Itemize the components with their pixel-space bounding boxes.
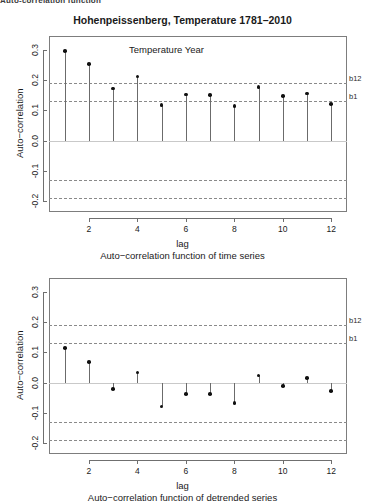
zero-reference-line (49, 141, 347, 142)
x-tick (331, 460, 332, 464)
clipped-page-header: Auto-correlation function (0, 0, 200, 8)
data-point (208, 392, 212, 396)
confidence-band-line (49, 101, 347, 102)
y-tick (43, 292, 47, 293)
y-axis-line (43, 292, 44, 444)
data-point (63, 346, 67, 350)
x-tick (331, 218, 332, 222)
stem-line (234, 106, 235, 141)
data-point (87, 360, 91, 364)
stem-line (137, 76, 138, 140)
x-tick (186, 218, 187, 222)
confidence-band-line (49, 422, 347, 423)
confidence-band-line (49, 180, 347, 181)
y-axis-label: Auto−correlation (14, 331, 25, 400)
chart-panel-time-series: Hohenpeissenberg, Temperature 1781–2010 … (0, 14, 365, 259)
x-tick (234, 460, 235, 464)
y-tick-label: -0.1 (30, 401, 40, 425)
y-tick-label: -0.2 (30, 431, 40, 455)
y-tick (43, 413, 47, 414)
band-label-b1: b1 (349, 92, 357, 101)
stem-line (186, 95, 187, 141)
data-point (233, 401, 237, 405)
y-tick (43, 352, 47, 353)
data-point (329, 389, 333, 393)
stem-line (65, 51, 66, 141)
stem-line (89, 362, 90, 383)
y-tick (43, 110, 47, 111)
y-tick-label: 0.2 (30, 68, 40, 92)
stem-line (234, 383, 235, 403)
x-tick (283, 460, 284, 464)
y-tick-label: 0.0 (30, 371, 40, 395)
plot-frame (49, 36, 347, 212)
plot-frame (49, 278, 347, 454)
x-tick-label: 6 (176, 224, 196, 234)
x-tick (283, 218, 284, 222)
stem-line (113, 88, 114, 140)
x-tick (137, 460, 138, 464)
y-tick (43, 80, 47, 81)
x-tick-label: 8 (224, 466, 244, 476)
stem-line (137, 373, 138, 383)
chart-caption: Auto−correlation function of detrended s… (0, 492, 365, 503)
chart-caption: Auto−correlation function of time series (0, 250, 365, 261)
y-tick (43, 383, 47, 384)
y-tick-label: 0.3 (30, 280, 40, 304)
x-tick-label: 2 (79, 224, 99, 234)
y-tick (43, 50, 47, 51)
confidence-band-line (49, 83, 347, 84)
data-point (87, 62, 91, 66)
confidence-band-line (49, 440, 347, 441)
x-tick (234, 218, 235, 222)
x-tick (137, 218, 138, 222)
stem-line (65, 348, 66, 383)
x-tick (89, 218, 90, 222)
x-tick-label: 2 (79, 466, 99, 476)
y-tick-label: 0.1 (30, 340, 40, 364)
x-tick-label: 10 (273, 466, 293, 476)
y-tick (43, 141, 47, 142)
plot-annotation: Temperature Year (129, 44, 204, 55)
data-point (305, 92, 309, 96)
x-tick-label: 12 (321, 466, 341, 476)
x-tick-label: 4 (127, 466, 147, 476)
data-point (208, 93, 212, 97)
y-tick (43, 322, 47, 323)
confidence-band-line (49, 198, 347, 199)
data-point (63, 49, 67, 53)
x-tick (89, 460, 90, 464)
y-tick-label: 0.3 (30, 38, 40, 62)
band-label-b12: b12 (349, 316, 362, 325)
x-axis-label: lag (0, 238, 365, 249)
x-tick (186, 460, 187, 464)
y-tick-label: 0.2 (30, 310, 40, 334)
y-tick-label: 0.0 (30, 129, 40, 153)
y-tick-label: 0.1 (30, 98, 40, 122)
y-tick (43, 171, 47, 172)
y-axis-line (43, 50, 44, 202)
y-tick-label: -0.2 (30, 189, 40, 213)
x-axis-line (89, 460, 331, 461)
data-point (281, 384, 285, 388)
x-tick-label: 4 (127, 224, 147, 234)
y-tick (43, 443, 47, 444)
data-point (305, 376, 309, 380)
x-axis-label: lag (0, 480, 365, 491)
stem-line (331, 104, 332, 140)
stem-line (283, 96, 284, 141)
stem-line (162, 105, 163, 141)
x-tick-label: 8 (224, 224, 244, 234)
data-point (111, 387, 115, 391)
stem-line (162, 383, 163, 407)
chart-panel-detrended: b12b10.30.20.10.0-0.1-0.224681012Auto−co… (0, 262, 365, 503)
x-tick-label: 10 (273, 224, 293, 234)
y-tick (43, 201, 47, 202)
y-axis-label: Auto−correlation (14, 89, 25, 158)
x-tick-label: 12 (321, 224, 341, 234)
zero-reference-line (49, 383, 347, 384)
band-label-b12: b12 (349, 74, 362, 83)
data-point (184, 93, 188, 97)
stem-line (259, 87, 260, 141)
band-label-b1: b1 (349, 334, 357, 343)
